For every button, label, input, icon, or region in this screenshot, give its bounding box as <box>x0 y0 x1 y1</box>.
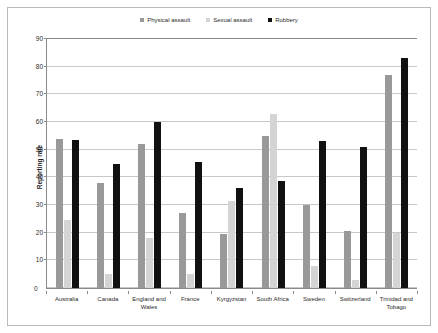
legend-item: Sexual assault <box>206 17 252 23</box>
y-tick-zero: 0 <box>34 285 38 292</box>
bar-groups <box>47 39 417 288</box>
bar-group <box>88 39 129 288</box>
x-tick-label: France <box>170 291 211 321</box>
chart-legend: Physical assaultSexual assaultRobbery <box>8 17 430 23</box>
bar <box>401 58 408 288</box>
y-tick-label: 10 <box>36 256 43 263</box>
bar <box>105 274 112 288</box>
x-tick-mark <box>252 291 253 294</box>
bar <box>72 140 79 288</box>
x-tick-mark <box>87 291 88 294</box>
bar <box>360 147 367 288</box>
bar <box>228 201 235 288</box>
bar <box>220 234 227 288</box>
x-tick-mark <box>211 291 212 294</box>
bar <box>187 274 194 288</box>
bar <box>262 136 269 288</box>
legend-swatch-icon <box>268 18 272 22</box>
bar <box>352 280 359 288</box>
legend-item-label: Physical assault <box>147 17 190 23</box>
x-axis-labels: AustraliaCanadaEngland and WalesFranceKy… <box>46 291 417 321</box>
legend-item-label: Sexual assault <box>213 17 252 23</box>
bar <box>179 213 186 288</box>
bar-group <box>47 39 88 288</box>
y-tick-label: 50 <box>36 145 43 152</box>
bar-group <box>335 39 376 288</box>
bar <box>319 141 326 288</box>
bar <box>311 266 318 288</box>
bar <box>278 181 285 288</box>
bar-group <box>211 39 252 288</box>
y-tick-label: 90 <box>36 35 43 42</box>
x-tick-label: Sweden <box>293 291 334 321</box>
legend-item: Physical assault <box>140 17 190 23</box>
bar <box>113 164 120 289</box>
bar <box>97 183 104 288</box>
legend-swatch-icon <box>140 18 144 22</box>
bar <box>344 231 351 288</box>
legend-item-label: Robbery <box>275 17 298 23</box>
y-tick-label: 20 <box>36 228 43 235</box>
x-tick-mark <box>417 291 418 294</box>
x-tick-label: South Africa <box>252 291 293 321</box>
bar <box>146 238 153 288</box>
x-tick-mark <box>335 291 336 294</box>
x-tick-label: Switzerland <box>335 291 376 321</box>
bar-group <box>253 39 294 288</box>
bar <box>138 144 145 288</box>
y-tick-label: 60 <box>36 118 43 125</box>
y-tick-label: 30 <box>36 201 43 208</box>
x-tick-label: Trinidad and Tobago <box>376 291 417 321</box>
chart-figure: Physical assaultSexual assaultRobbery Re… <box>7 7 431 326</box>
bar <box>303 205 310 288</box>
x-tick-mark <box>376 291 377 294</box>
x-tick-label: Australia <box>46 291 87 321</box>
x-tick-label: Canada <box>87 291 128 321</box>
bar <box>154 122 161 288</box>
bar-group <box>129 39 170 288</box>
legend-item: Robbery <box>268 17 298 23</box>
bar <box>385 75 392 288</box>
bar <box>236 188 243 288</box>
bar <box>270 114 277 288</box>
plot-area: 102030405060708090 <box>46 39 417 289</box>
y-tick-label: 70 <box>36 90 43 97</box>
bar-group <box>376 39 417 288</box>
y-tick-label: 40 <box>36 173 43 180</box>
bar-group <box>170 39 211 288</box>
x-tick-mark <box>128 291 129 294</box>
y-tick-label: 80 <box>36 62 43 69</box>
bar <box>393 233 400 288</box>
bar <box>56 139 63 288</box>
x-tick-mark <box>170 291 171 294</box>
bar <box>195 162 202 288</box>
legend-swatch-icon <box>206 18 210 22</box>
bar-group <box>294 39 335 288</box>
bar <box>64 220 71 288</box>
x-tick-mark <box>46 291 47 294</box>
x-tick-mark <box>293 291 294 294</box>
x-tick-label: Kyrgyzstan <box>211 291 252 321</box>
plot-area-wrapper: 102030405060708090 <box>46 39 417 289</box>
x-tick-label: England and Wales <box>128 291 169 321</box>
